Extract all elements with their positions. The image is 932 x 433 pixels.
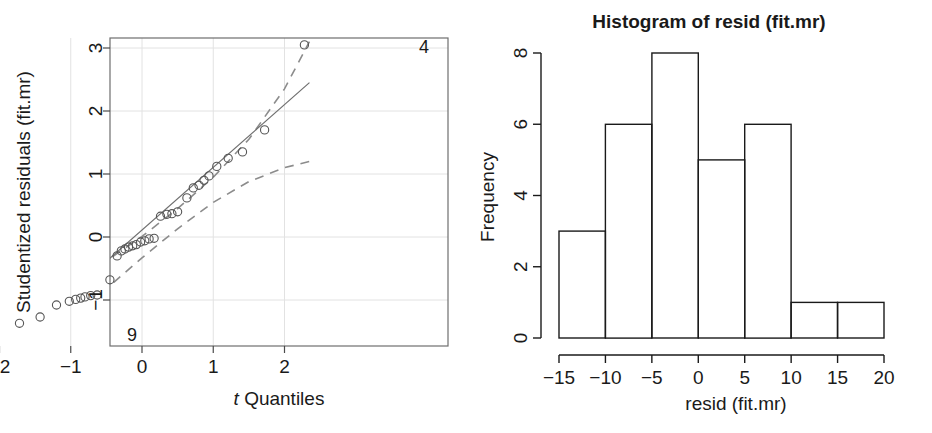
histogram-x-tick-label: 10 <box>781 367 802 388</box>
histogram-title: Histogram of resid (fit.mr) <box>592 11 825 32</box>
histogram-panel: Histogram of resid (fit.mr) 02468 −15−10… <box>466 0 932 433</box>
qq-data-point <box>200 176 208 184</box>
qq-data-point <box>238 148 246 156</box>
qq-y-axis-label: Studentized residuals (fit.mr) <box>13 71 34 313</box>
qq-data-point <box>168 210 176 218</box>
qq-x-tick-label: 1 <box>208 356 219 377</box>
qq-x-tick-label: 2 <box>279 356 290 377</box>
qq-point-label-9: 9 <box>127 325 137 345</box>
histogram-x-tick-label: 5 <box>739 367 750 388</box>
qq-data-point <box>36 313 44 321</box>
histogram-y-axis-label: Frequency <box>477 152 498 242</box>
qq-data-points <box>0 41 308 342</box>
qq-y-tick-label: 1 <box>85 169 106 180</box>
histogram-x-tick-label: −5 <box>641 367 663 388</box>
histogram-x-tick-label: 20 <box>873 367 894 388</box>
qq-y-axis-ticks: −10123 <box>85 43 110 311</box>
histogram-x-axis: −15−10−505101520 <box>543 355 895 388</box>
qq-data-point <box>261 126 269 134</box>
qq-data-point <box>150 234 158 242</box>
histogram-x-tick-label: 0 <box>693 367 704 388</box>
histogram-x-tick-label: −10 <box>589 367 621 388</box>
histogram-bars <box>559 53 884 338</box>
histogram-bar <box>745 124 791 338</box>
histogram-svg: Histogram of resid (fit.mr) 02468 −15−10… <box>466 0 932 433</box>
qq-x-tick-label: 0 <box>137 356 148 377</box>
histogram-y-tick-label: 2 <box>510 261 531 272</box>
histogram-x-axis-label: resid (fit.mr) <box>685 393 786 414</box>
histogram-bar <box>698 160 744 338</box>
qq-x-axis-label: t Quantiles <box>234 388 325 409</box>
qq-x-tick-label: −1 <box>60 356 82 377</box>
histogram-x-tick-label: 15 <box>827 367 848 388</box>
histogram-y-tick-label: 4 <box>510 190 531 201</box>
qq-data-point <box>205 172 213 180</box>
histogram-y-tick-label: 0 <box>510 333 531 344</box>
qq-point-label-4: 4 <box>419 37 429 57</box>
qq-plot-panel: 4 9 −2−1012 −10123 t Quantiles Studentiz… <box>0 0 466 433</box>
qq-y-tick-label: 3 <box>85 43 106 54</box>
histogram-y-axis: 02468 <box>510 48 541 344</box>
histogram-bar <box>791 302 837 338</box>
qq-y-tick-label: −1 <box>85 289 106 311</box>
qq-y-tick-label: 0 <box>85 232 106 243</box>
qq-plot-svg: 4 9 −2−1012 −10123 t Quantiles Studentiz… <box>0 0 466 433</box>
histogram-bar <box>838 302 884 338</box>
histogram-x-tick-label: −15 <box>543 367 575 388</box>
histogram-bar <box>605 124 651 338</box>
histogram-bar <box>559 231 605 338</box>
qq-y-tick-label: 2 <box>85 106 106 117</box>
figure-panel-pair: 4 9 −2−1012 −10123 t Quantiles Studentiz… <box>0 0 932 433</box>
histogram-bar <box>652 53 698 338</box>
qq-x-axis-label-rest: Quantiles <box>239 388 325 409</box>
qq-data-point <box>52 301 60 309</box>
qq-confidence-band-lower <box>0 161 309 407</box>
qq-confidence-band-upper <box>0 42 309 322</box>
qq-gridlines <box>0 38 448 346</box>
qq-x-tick-label: −2 <box>0 356 10 377</box>
qq-reference-line <box>5 83 309 351</box>
histogram-y-tick-label: 6 <box>510 119 531 130</box>
histogram-y-tick-label: 8 <box>510 48 531 59</box>
qq-data-point <box>15 319 23 327</box>
qq-x-axis-ticks: −2−1012 <box>0 346 290 377</box>
